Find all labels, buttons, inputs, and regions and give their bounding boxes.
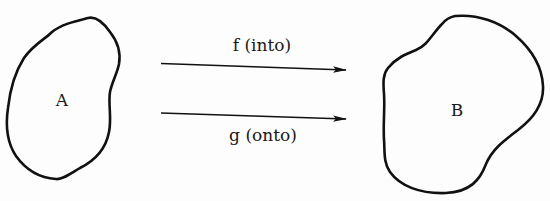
arrow-g-label: g (onto): [229, 125, 297, 145]
set-b: B: [383, 16, 543, 193]
arrow-g: g (onto): [161, 113, 346, 145]
set-b-label: B: [451, 100, 464, 120]
mapping-diagram: A B f (into) g (onto): [0, 0, 550, 201]
arrow-f-label: f (into): [233, 35, 291, 55]
arrow-f-line: [161, 64, 346, 71]
diagram-svg: A B f (into) g (onto): [0, 0, 550, 201]
arrow-g-line: [161, 113, 346, 119]
set-a-label: A: [55, 90, 69, 110]
arrow-f: f (into): [161, 35, 346, 70]
set-b-boundary: [383, 16, 543, 193]
set-a: A: [7, 18, 120, 179]
